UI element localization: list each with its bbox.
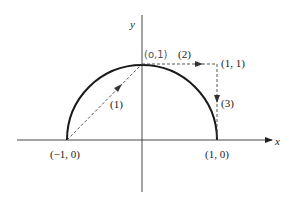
path-2-label: (2) [178, 48, 191, 61]
path-1-label: (1) [110, 98, 123, 111]
path-3-arrow-icon [214, 95, 220, 103]
path-3-label: (3) [221, 97, 234, 110]
point-label-right: (1, 0) [205, 148, 229, 161]
point-label-corner: (1, 1) [221, 57, 245, 70]
path-1-arrow-icon [114, 84, 122, 92]
y-axis-label: y [129, 18, 135, 30]
semicircle-path-diagram: y x (−1, 0) (1, 0) (o,1) (1, 1) (1) (2) … [0, 0, 289, 204]
x-axis-label: x [274, 135, 280, 147]
point-label-left: (−1, 0) [50, 148, 80, 161]
point-label-top: (o,1) [144, 49, 168, 60]
path-2-arrow-icon [195, 61, 203, 67]
